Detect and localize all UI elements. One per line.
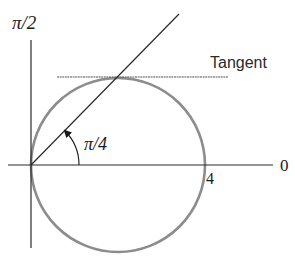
label-angle-zero: 0 (280, 156, 289, 175)
label-pi-over-4: π/4 (84, 134, 107, 154)
label-radius-4: 4 (206, 170, 214, 187)
polar-diagram: π/2 0 π/4 4 Tangent (0, 0, 295, 267)
label-pi-over-2: π/2 (12, 12, 37, 33)
angle-arc-icon (65, 131, 79, 165)
label-tangent: Tangent (210, 54, 267, 71)
